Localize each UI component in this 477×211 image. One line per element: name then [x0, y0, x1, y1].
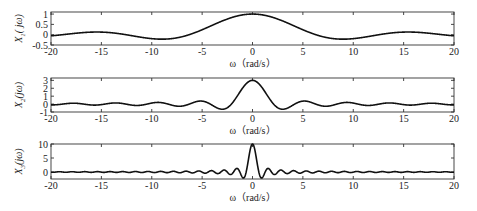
x-tick-label: 15 [399, 180, 409, 191]
x-tick-label: -15 [95, 180, 108, 191]
x-tick-label: 5 [300, 113, 305, 124]
figure: -20-15-10-505101520-0.500.51X1( jω)ω（rad… [0, 0, 477, 211]
x-axis-label: ω（rad/s） [229, 125, 275, 136]
plot-frame [51, 12, 454, 45]
x-axis-label: ω（rad/s） [229, 192, 275, 203]
y-tick-label: -0.5 [32, 40, 48, 51]
series-line-x3j [51, 144, 454, 178]
x-tick-label: -10 [145, 46, 158, 57]
x-tick-label: -10 [145, 113, 158, 124]
y-tick-label: 0 [43, 167, 48, 178]
y-axis-label-tail: (jω) [13, 81, 25, 98]
x-tick-label: -10 [145, 180, 158, 191]
x-tick-label: 15 [399, 113, 409, 124]
x-tick-label: -5 [198, 180, 206, 191]
panel-x1: -20-15-10-505101520-0.500.51X1( jω)ω（rad… [13, 9, 459, 69]
x-tick-label: -5 [198, 113, 206, 124]
x-tick-label: 5 [300, 46, 305, 57]
x-tick-label: 15 [399, 46, 409, 57]
panel-x3: -20-15-10-5051015200510X3(jω)ω（rad/s） [13, 139, 459, 204]
x-tick-label: 0 [250, 113, 255, 124]
y-tick-label: 5 [43, 153, 48, 164]
series-line-x2j [51, 80, 454, 109]
x-tick-label: 0 [250, 180, 255, 191]
x-tick-label: -15 [95, 113, 108, 124]
y-tick-label: 1 [43, 9, 48, 20]
plot-frame [51, 78, 454, 112]
y-tick-label: 10 [38, 139, 48, 150]
x-tick-label: -5 [198, 46, 206, 57]
y-axis-label: X3(jω) [13, 148, 27, 176]
y-axis-label: X1( jω) [13, 14, 27, 44]
y-axis-label-tail: (jω) [13, 148, 25, 165]
plot-frame [51, 144, 454, 179]
y-axis-label: X2(jω) [13, 81, 27, 109]
x-tick-label: 5 [300, 180, 305, 191]
y-axis-label-tail: ( jω) [13, 14, 25, 34]
y-tick-label: 3 [43, 75, 48, 86]
series-line-x1j [51, 14, 454, 39]
x-tick-label: 10 [348, 180, 358, 191]
y-tick-label: 0 [43, 29, 48, 40]
x-tick-label: 20 [449, 113, 459, 124]
x-tick-label: 20 [449, 46, 459, 57]
x-axis-label: ω（rad/s） [229, 58, 275, 69]
x-tick-label: -20 [44, 180, 57, 191]
x-tick-label: 10 [348, 46, 358, 57]
x-tick-label: 10 [348, 113, 358, 124]
x-tick-label: 0 [250, 46, 255, 57]
x-tick-label: -15 [95, 46, 108, 57]
y-tick-label: 0.5 [36, 19, 49, 30]
x-tick-label: 20 [449, 180, 459, 191]
panel-x2: -20-15-10-505101520-10123X2(jω)ω（rad/s） [13, 75, 459, 136]
